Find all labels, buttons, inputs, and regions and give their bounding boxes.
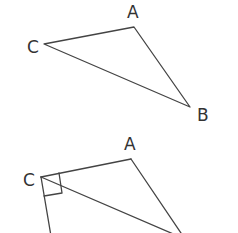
top-triangle: A C B: [27, 2, 209, 125]
segment-a-down: [131, 159, 183, 233]
segment-cb: [41, 177, 178, 233]
bottom-figure: A C: [23, 134, 183, 233]
label-c-bottom: C: [23, 170, 35, 190]
label-c-top: C: [27, 37, 39, 57]
label-b-top: B: [197, 105, 209, 125]
label-a-bottom: A: [124, 134, 136, 154]
triangle-abc: [44, 27, 190, 107]
segment-c-down: [41, 177, 51, 233]
segment-ca: [41, 159, 131, 177]
geometry-diagram: A C B A C: [0, 0, 238, 233]
label-a-top: A: [127, 2, 139, 22]
